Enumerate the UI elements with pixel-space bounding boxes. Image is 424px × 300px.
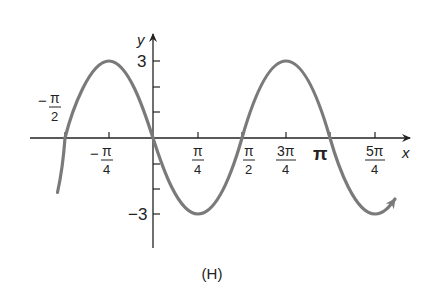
svg-text:π: π: [244, 143, 254, 159]
x-tick-label-pi-over-4: π 4: [192, 143, 204, 177]
y-tick-label-neg3: −3: [128, 205, 147, 224]
y-tick-label-3: 3: [137, 52, 146, 71]
svg-text:2: 2: [51, 109, 58, 124]
x-tick-label-pi: π: [313, 143, 328, 164]
svg-text:−: −: [38, 92, 47, 109]
x-tick-label-5pi-over-4: 5π 4: [365, 143, 385, 177]
svg-text:2: 2: [245, 162, 252, 177]
sine-graph: y x 3 −3 − π 2 − π 4 π 4 π 2 3π 4 π 5π 4: [0, 0, 424, 300]
svg-text:3π: 3π: [277, 143, 295, 159]
svg-text:−: −: [90, 145, 99, 162]
svg-text:π: π: [193, 143, 203, 159]
svg-text:4: 4: [371, 162, 378, 177]
x-tick-label-pi-over-2: π 2: [243, 143, 255, 177]
x-axis-label: x: [401, 144, 410, 161]
svg-text:4: 4: [103, 162, 110, 177]
x-tick-label-neg-pi-over-4: − π 4: [90, 143, 113, 177]
svg-text:5π: 5π: [366, 143, 384, 159]
x-tick-label-neg-pi-over-2: − π 2: [38, 90, 61, 124]
x-tick-label-3pi-over-4: 3π 4: [276, 143, 296, 177]
y-axis-label: y: [136, 31, 146, 48]
svg-text:4: 4: [282, 162, 289, 177]
svg-text:π: π: [102, 143, 112, 159]
figure-caption: (H): [0, 265, 424, 282]
svg-text:π: π: [50, 90, 60, 106]
svg-text:4: 4: [194, 162, 201, 177]
